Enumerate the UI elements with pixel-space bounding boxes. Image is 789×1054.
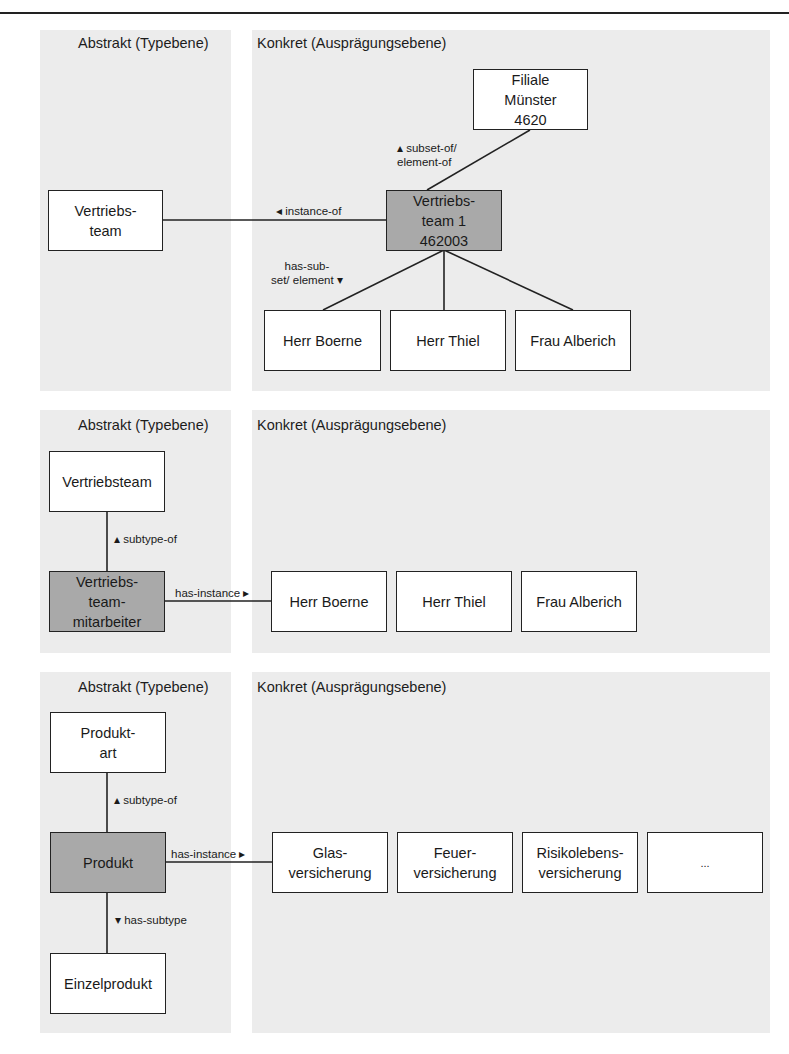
relation-label-has-subtype: ▾ has-subtype xyxy=(115,913,187,927)
relation-label-has-instance: has-instance ▸ xyxy=(171,847,245,861)
member-box: Herr Boerne xyxy=(264,310,381,371)
relation-label-has-subset: has-sub- set/ element ▾ xyxy=(271,259,343,287)
member-box: Herr Thiel xyxy=(390,310,506,371)
instance-box: Feuer- versicherung xyxy=(397,832,513,893)
relation-label-has-instance: has-instance ▸ xyxy=(175,586,249,600)
relation-label-subtype-of: ▴ subtype-of xyxy=(114,532,177,546)
supertype-box-vertriebsteam: Vertriebsteam xyxy=(49,451,165,512)
member-box: Frau Alberich xyxy=(515,310,631,371)
parent-box-filiale-muenster: Filiale Münster 4620 xyxy=(473,69,588,130)
connector-lines xyxy=(0,0,789,1054)
instance-box: Herr Boerne xyxy=(271,571,387,632)
instance-box-vertriebsteam-1: Vertriebs- team 1 462003 xyxy=(386,190,502,251)
supertype-box-produktart: Produkt- art xyxy=(50,712,166,773)
relation-label-instance-of: ◂ instance-of xyxy=(276,204,341,218)
instance-box: Herr Thiel xyxy=(396,571,512,632)
instance-box: Frau Alberich xyxy=(521,571,637,632)
type-box-vertriebsteam: Vertriebs- team xyxy=(48,190,163,251)
type-box-produkt: Produkt xyxy=(50,832,166,893)
relation-label-subset-of: ▴ subset-of/ element-of xyxy=(397,141,457,169)
subtype-box-einzelprodukt: Einzelprodukt xyxy=(50,953,166,1014)
instance-box: Glas- versicherung xyxy=(272,832,388,893)
instance-box: Risikolebens- versicherung xyxy=(522,832,638,893)
instance-box-ellipsis: ... xyxy=(647,832,763,893)
relation-label-subtype-of: ▴ subtype-of xyxy=(114,793,177,807)
type-box-vertriebsteam-mitarbeiter: Vertriebs- team- mitarbeiter xyxy=(49,571,165,632)
